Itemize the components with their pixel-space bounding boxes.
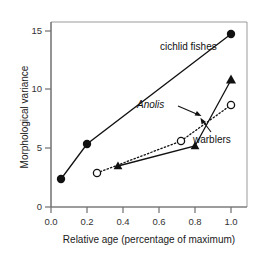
annotation-anolis: Anolis xyxy=(137,99,164,110)
annotation-warblers: warblers xyxy=(193,134,231,145)
datapoint-warblers-1 xyxy=(93,169,100,176)
annotation-arrows xyxy=(178,106,211,132)
x-axis xyxy=(51,207,247,213)
x-tick-label-0.8: 0.8 xyxy=(182,216,208,227)
y-tick-label-0: 0 xyxy=(28,201,42,212)
x-tick-label-0.0: 0.0 xyxy=(38,216,64,227)
x-tick-label-0.6: 0.6 xyxy=(146,216,172,227)
datapoint-cichlid-2 xyxy=(83,140,91,148)
datapoint-cichlid-1 xyxy=(57,175,65,183)
x-tick-label-1.0: 1.0 xyxy=(218,216,244,227)
datapoint-cichlid-3 xyxy=(227,30,235,38)
datapoint-warblers-2 xyxy=(177,137,184,144)
annotation-cichlid-fishes: cichlid fishes xyxy=(160,41,217,52)
y-tick-label-15: 15 xyxy=(28,25,42,36)
series-anolis xyxy=(114,75,236,170)
x-tick-label-0.2: 0.2 xyxy=(74,216,100,227)
y-axis-title: Morphological variance xyxy=(19,66,30,169)
anolis-arrowhead xyxy=(195,111,202,116)
figure: 15 10 5 0 0.0 0.2 0.4 0.6 0.8 1.0 Relati… xyxy=(0,0,266,272)
x-axis-title: Relative age (percentage of maximum) xyxy=(51,234,247,245)
x-tick-label-0.4: 0.4 xyxy=(110,216,136,227)
y-axis xyxy=(45,22,51,207)
y-axis-title-wrapper: Morphological variance xyxy=(14,47,32,187)
datapoint-anolis-3 xyxy=(226,75,236,84)
datapoint-warblers-3 xyxy=(227,101,234,108)
